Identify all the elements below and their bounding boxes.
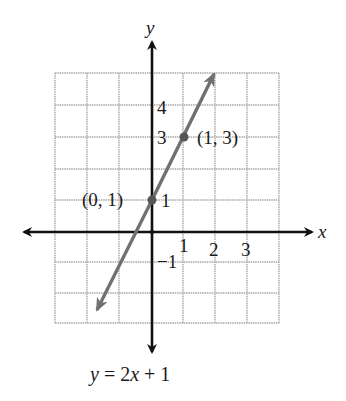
y-tick-neg1: −1 <box>157 251 177 272</box>
x-tick-2: 2 <box>209 239 219 260</box>
equation-label: y = 2x + 1 <box>88 363 170 386</box>
y-tick-4: 4 <box>157 97 167 118</box>
point-label-0-1: (0, 1) <box>82 189 123 211</box>
y-tick-3: 3 <box>157 127 167 148</box>
x-tick-1: 1 <box>179 235 189 256</box>
point-1-3 <box>180 133 189 142</box>
y-tick-1: 1 <box>161 190 171 211</box>
graph-canvas: y x 4 3 1 −1 1 2 3 (0, 1) (1, 3) y = 2x … <box>0 0 346 401</box>
x-tick-3: 3 <box>241 239 251 260</box>
y-axis-label: y <box>144 17 155 38</box>
point-label-1-3: (1, 3) <box>197 127 238 149</box>
x-axis-label: x <box>317 221 327 242</box>
point-0-1 <box>148 196 157 205</box>
